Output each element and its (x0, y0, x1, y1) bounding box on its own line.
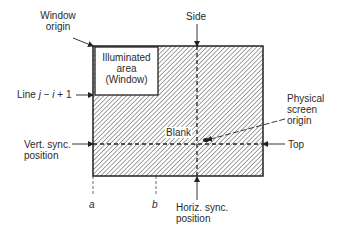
illuminated-text-1: Illuminated (95, 52, 158, 63)
horiz-sync-text-1: Horiz. sync. (176, 202, 228, 213)
illuminated-text-3: (Window) (95, 74, 158, 85)
line-j-i-label: Line j − i + 1 (17, 89, 72, 100)
b-label: b (152, 199, 158, 210)
horiz-sync-label: Horiz. sync. position (176, 202, 228, 224)
illuminated-area-label: Illuminated area (Window) (95, 52, 158, 85)
physical-text-2: screen (287, 104, 324, 115)
window-origin-label: Window origin (30, 10, 86, 32)
top-label: Top (288, 139, 304, 150)
side-label: Side (186, 11, 206, 22)
window-origin-arrow (73, 38, 93, 46)
horiz-sync-text-2: position (176, 213, 228, 224)
window-origin-text-2: origin (30, 21, 86, 32)
line-minus: − (41, 89, 52, 100)
vert-sync-text-1: Vert. sync. (24, 139, 71, 150)
illuminated-text-2: area (95, 63, 158, 74)
physical-origin-dot (203, 138, 209, 142)
window-origin-text-1: Window (30, 10, 86, 21)
line-suffix: + 1 (55, 89, 72, 100)
physical-text-3: origin (287, 115, 324, 126)
vert-sync-label: Vert. sync. position (24, 139, 71, 161)
physical-text-1: Physical (287, 93, 324, 104)
vert-sync-text-2: position (24, 150, 71, 161)
blank-label: Blank (165, 127, 192, 138)
line-prefix: Line (17, 89, 39, 100)
a-label: a (89, 199, 95, 210)
physical-screen-origin-label: Physical screen origin (287, 93, 324, 126)
